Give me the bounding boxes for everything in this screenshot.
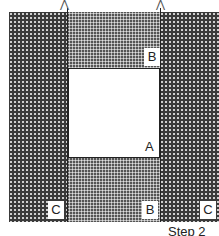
- label-a: A: [145, 139, 154, 154]
- label-c-right: C: [200, 201, 216, 219]
- left-fabric-panel: [9, 12, 68, 222]
- right-fabric-panel: [160, 12, 219, 222]
- clip-mark-right: ⋀: [156, 0, 165, 11]
- clip-mark-left: ⋀: [60, 0, 69, 11]
- label-b-bottom: B: [142, 201, 158, 219]
- seam-right: [160, 8, 161, 222]
- label-c-left: C: [48, 201, 64, 219]
- label-b-top: B: [144, 48, 160, 66]
- step-caption: Step 2: [168, 224, 206, 236]
